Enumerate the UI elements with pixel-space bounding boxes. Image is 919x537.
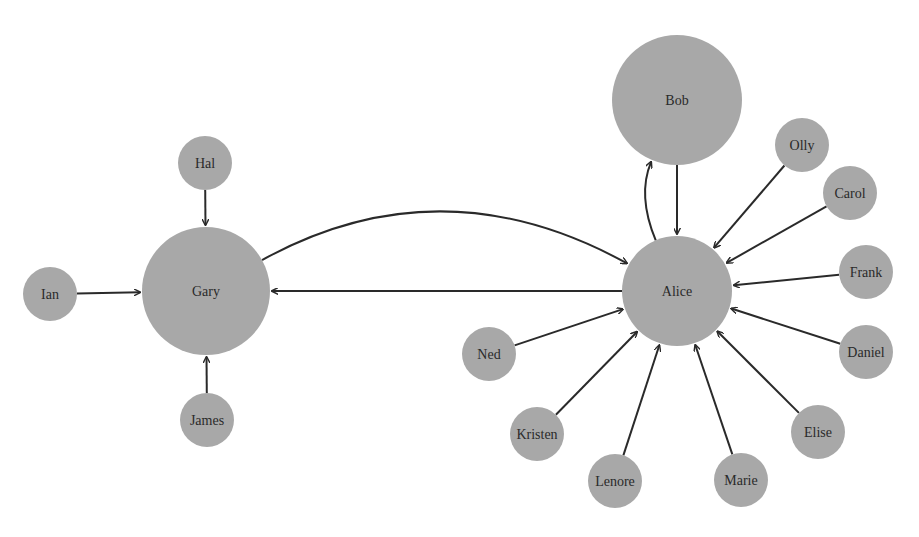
node-label: Lenore (595, 474, 635, 489)
node-marie: Marie (714, 453, 768, 507)
node-label: Gary (192, 284, 220, 299)
node-label: Ian (41, 287, 59, 302)
node-lenore: Lenore (588, 454, 642, 508)
node-kristen: Kristen (510, 407, 564, 461)
edge-frank-to-alice (734, 275, 839, 286)
node-olly: Olly (775, 118, 829, 172)
edge-kristen-to-alice (556, 332, 637, 415)
node-daniel: Daniel (839, 325, 893, 379)
edge-alice-to-bob (645, 162, 656, 240)
edge-elise-to-alice (717, 331, 799, 413)
node-label: Marie (724, 473, 757, 488)
edge-ned-to-alice (515, 309, 623, 345)
node-label: Hal (195, 156, 215, 171)
edge-lenore-to-alice (623, 345, 659, 455)
node-elise: Elise (791, 405, 845, 459)
edge-ian-to-gary (77, 292, 140, 293)
node-label: Kristen (516, 427, 557, 442)
node-label: Frank (850, 265, 883, 280)
node-alice: Alice (622, 236, 732, 346)
nodes-layer: GaryHalIanJamesBobAliceOllyCarolFrankDan… (23, 35, 893, 508)
node-label: Elise (804, 425, 832, 440)
edge-daniel-to-alice (731, 309, 840, 344)
node-label: Olly (790, 138, 815, 153)
node-label: James (190, 413, 224, 428)
node-label: Daniel (847, 345, 884, 360)
node-label: Bob (665, 93, 688, 108)
node-ned: Ned (462, 327, 516, 381)
network-graph: GaryHalIanJamesBobAliceOllyCarolFrankDan… (0, 0, 919, 537)
node-label: Ned (477, 347, 500, 362)
node-ian: Ian (23, 267, 77, 321)
node-frank: Frank (839, 245, 893, 299)
node-hal: Hal (178, 136, 232, 190)
node-label: Alice (662, 284, 692, 299)
node-james: James (180, 393, 234, 447)
edge-gary-to-alice (262, 211, 627, 263)
node-gary: Gary (142, 227, 270, 355)
node-label: Carol (834, 186, 865, 201)
edge-marie-to-alice (695, 345, 732, 454)
node-bob: Bob (612, 35, 742, 165)
node-carol: Carol (823, 166, 877, 220)
